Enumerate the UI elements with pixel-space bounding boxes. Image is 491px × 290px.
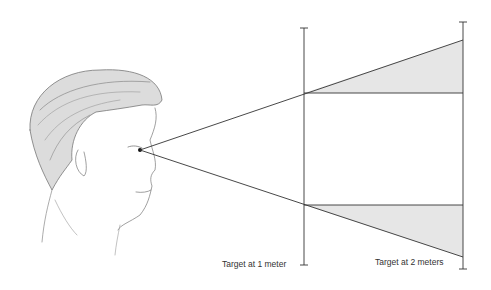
upper-sight-ray (140, 40, 463, 150)
lower-sight-ray (140, 150, 463, 257)
target-1m-label: Target at 1 meter (222, 259, 286, 269)
diagram-canvas (0, 0, 491, 290)
head-profile-illustration (30, 70, 162, 255)
target-2m-label: Target at 2 meters (375, 257, 444, 267)
